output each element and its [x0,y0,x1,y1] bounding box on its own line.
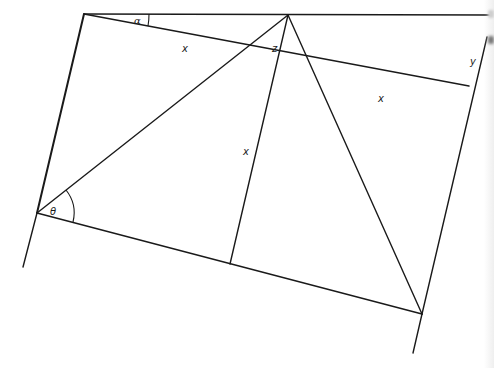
y-label: y [469,56,477,67]
left-edge-extension-line [23,213,37,267]
x-vertical-label: x [242,146,249,157]
left-edge-line [37,14,84,213]
x-right-diagonal-label: x [377,93,384,104]
apex-to-bottom-right-line [288,15,422,314]
x-top-diagonal-label: x [181,43,188,54]
z-label: z [271,43,278,54]
page-edge-shadow [484,0,494,368]
page-edge-mark [488,10,494,18]
alpha-label: α [134,15,141,26]
geometry-diagram: α θ x z x y x [0,0,494,368]
right-edge-extension-line [413,314,422,353]
page-edge-mark-dark [488,36,494,44]
theta-angle-arc [66,190,74,222]
middle-vertical-line [230,15,288,264]
theta-label: θ [50,206,56,217]
alpha-angle-arc [148,14,149,26]
apex-to-left-line [37,15,288,213]
top-edge-line [84,14,490,15]
